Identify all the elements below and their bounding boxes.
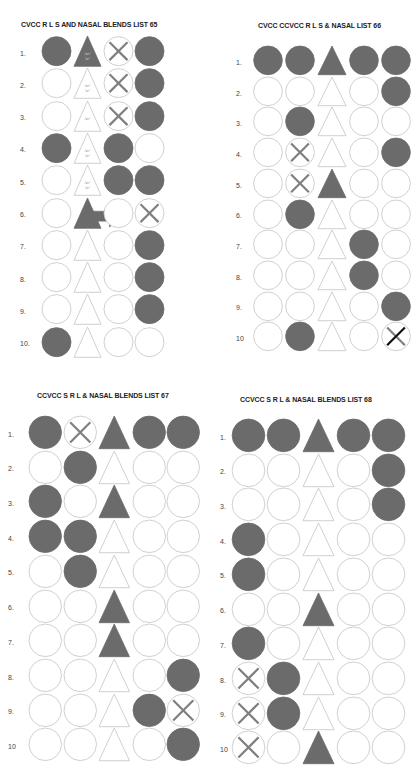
row-number: 5. (8, 569, 14, 576)
circle-icon (103, 293, 134, 325)
triangle-icon (301, 522, 336, 557)
triangle-icon (72, 261, 103, 293)
row-number: 4. (8, 535, 14, 542)
circle-filled-icon (28, 484, 63, 519)
circle-icon (132, 450, 167, 485)
circle-icon (266, 626, 301, 661)
circle-filled-icon (284, 199, 316, 230)
row-number: 6. (220, 607, 226, 614)
circle-icon (28, 658, 63, 693)
circle-filled-icon (134, 100, 165, 132)
svg-text:'er': 'er' (85, 185, 90, 190)
triangle-icon (72, 229, 103, 261)
circle-icon (266, 557, 301, 592)
triangle-icon: /er/'er' (72, 67, 103, 99)
row-number: 7. (220, 642, 226, 649)
row-number: 3. (20, 114, 26, 121)
circle-icon (41, 293, 72, 325)
circle-filled-icon (380, 45, 412, 76)
list-title: CCVCC S R L & NASAL BLENDS LIST 68 (240, 396, 372, 403)
circle-filled-icon (348, 260, 380, 291)
svg-text:'er': 'er' (85, 88, 90, 93)
row-number: 8. (8, 674, 14, 681)
triangle-icon (72, 293, 103, 325)
circle-filled-icon (371, 418, 406, 453)
circle-icon (336, 661, 371, 696)
circle-filled-icon (231, 418, 266, 453)
triangle-filled-icon (97, 415, 132, 450)
triangle-icon (316, 260, 348, 291)
triangle-filled-icon (72, 197, 103, 229)
circle-icon (371, 626, 406, 661)
circle-filled-icon (266, 661, 301, 696)
circle-filled-icon (134, 164, 165, 196)
circle-icon (336, 557, 371, 592)
circle-icon (166, 623, 201, 658)
row-number: 8. (236, 274, 242, 281)
circle-icon (380, 168, 412, 199)
circle-filled-icon (41, 132, 72, 164)
triangle-icon (301, 626, 336, 661)
triangle-icon (301, 661, 336, 696)
circle-filled-icon (134, 35, 165, 67)
circle-icon (252, 137, 284, 168)
circle-filled-icon (134, 293, 165, 325)
row-number: 7. (236, 243, 242, 250)
circle-icon (41, 164, 72, 196)
circle-icon (132, 589, 167, 624)
svg-text:/er/: /er/ (84, 116, 92, 121)
triangle-icon (301, 557, 336, 592)
triangle-filled-icon (316, 45, 348, 76)
circle-icon (41, 197, 72, 229)
circle-filled-icon (284, 106, 316, 137)
svg-text:'er': 'er' (85, 153, 90, 158)
triangle-icon (97, 693, 132, 728)
row-number: 6. (8, 604, 14, 611)
circle-icon (166, 450, 201, 485)
circle-cross-icon (284, 137, 316, 168)
circle-icon (132, 484, 167, 519)
circle-filled-icon (28, 519, 63, 554)
triangle-filled-icon (301, 418, 336, 453)
circle-icon (166, 519, 201, 554)
circle-icon (348, 76, 380, 107)
triangle-icon (316, 76, 348, 107)
triangle-icon (97, 519, 132, 554)
circle-icon (284, 260, 316, 291)
circle-icon (132, 658, 167, 693)
row-number: 5. (236, 182, 242, 189)
circle-filled-icon (166, 415, 201, 450)
row-number: 9. (20, 308, 26, 315)
circle-icon (252, 291, 284, 322)
circle-icon (266, 730, 301, 765)
circle-icon (166, 554, 201, 589)
circle-icon (132, 554, 167, 589)
circle-filled-icon (132, 693, 167, 728)
triangle-icon (301, 487, 336, 522)
circle-icon (103, 326, 134, 358)
triangle-filled-icon (97, 484, 132, 519)
row-number: 8. (220, 677, 226, 684)
circle-filled-icon (166, 727, 201, 762)
circle-filled-icon (380, 137, 412, 168)
circle-filled-icon (380, 76, 412, 107)
circle-icon (371, 696, 406, 731)
circle-filled-icon (103, 164, 134, 196)
row-number: 4. (220, 538, 226, 545)
circle-filled-icon (63, 519, 98, 554)
row-number: 7. (20, 243, 26, 250)
row-number: 5. (220, 572, 226, 579)
row-number: 2. (220, 468, 226, 475)
circle-filled-icon (348, 45, 380, 76)
triangle-icon: /er/'er' (72, 132, 103, 164)
circle-icon (380, 229, 412, 260)
triangle-icon (97, 450, 132, 485)
circle-icon (348, 291, 380, 322)
triangle-icon (301, 453, 336, 488)
circle-filled-icon (28, 415, 63, 450)
circle-icon (28, 554, 63, 589)
circle-icon (284, 76, 316, 107)
circle-icon (380, 106, 412, 137)
circle-icon (348, 199, 380, 230)
circle-icon (371, 557, 406, 592)
